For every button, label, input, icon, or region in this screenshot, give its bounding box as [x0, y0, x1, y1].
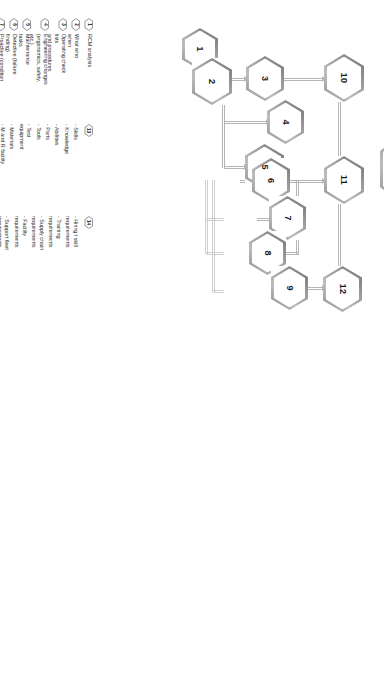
connector-lower-riser-8b [206, 254, 224, 255]
legend-13-item-6: - Materials [7, 124, 15, 192]
legend-hex-2-num: 2 [73, 23, 79, 26]
connector-lower-riser-8 [206, 252, 224, 253]
connector-6-to-11-b [290, 182, 322, 183]
legend-13-item-4: - Tools [34, 124, 42, 192]
node-hex-2[interactable]: 2 [192, 58, 232, 105]
legend-group-14-list: - Hiring / skill requirements - Training… [0, 216, 79, 288]
connector-to-4-b [224, 123, 266, 124]
legend-hex-1: 1 [85, 18, 94, 31]
legend-hex-14-num: 14 [87, 220, 92, 225]
legend-group-13-list: - Skills - Knowledge - Abilities - Parts… [0, 124, 79, 192]
legend-hex-4-num: 4 [42, 23, 48, 26]
legend-14-item-2: - Supply chain requirements [29, 216, 45, 288]
diagram-canvas-wrapper: 1 2 3 4 5 6 [0, 0, 384, 699]
legend-label-7: Proactive (condition based) [0, 34, 6, 92]
node-6-label: 6 [267, 178, 276, 183]
legend-group-14-header[interactable]: 14 [85, 216, 95, 229]
connector-lower-riser-9 [213, 290, 224, 291]
legend-hex-6: 6 [10, 18, 19, 31]
connector-to-4 [224, 121, 266, 122]
legend-hex-1-num: 1 [86, 23, 92, 26]
connector-to-5 [224, 166, 244, 167]
legend-13-item-3: - Parts [43, 124, 51, 192]
legend-hex-7-num: 7 [0, 23, 4, 26]
legend-13-item-5: - Test equipment [17, 124, 33, 192]
node-7-label: 7 [283, 215, 292, 220]
legend-group-13-header[interactable]: 13 [85, 124, 95, 137]
legend-item-2[interactable]: 2 What who when [67, 18, 82, 70]
legend-14-item-4: - Support fleet requirements [0, 216, 10, 288]
node-2-label: 2 [208, 79, 217, 84]
node-5-label: 5 [260, 164, 269, 169]
node-4-label: 4 [281, 119, 290, 124]
legend-14-item-0: - Hiring / skill requirements [63, 216, 79, 288]
legend-13-item-2: - Abilities [53, 124, 61, 192]
legend-hex-3: 3 [59, 18, 68, 31]
legend-hex-13-num: 13 [87, 128, 92, 133]
legend-item-6[interactable]: 6 Detective (failure finding) [5, 18, 20, 88]
node-3-label: 3 [261, 76, 270, 81]
legend-item-7[interactable]: 7 Proactive (condition based) [0, 18, 6, 92]
node-hex-12[interactable]: 12 [323, 266, 362, 312]
legend-hex-2: 2 [72, 18, 81, 31]
node-hex-3[interactable]: 3 [246, 56, 284, 101]
node-hex-4[interactable]: 4 [267, 100, 304, 144]
connector-lower-bar-1 [214, 180, 215, 292]
legend-label-2: What who when [67, 34, 82, 70]
legend-hex-14: 14 [85, 216, 94, 229]
legend-13-item-1: - Knowledge [62, 124, 70, 192]
node-hex-9[interactable]: 9 [271, 266, 308, 310]
legend-hex-7: 7 [0, 18, 6, 31]
connector-lower-riser-7 [206, 218, 224, 219]
legend-hex-5-num: 5 [24, 23, 30, 26]
legend-label-1: RCM analysis [86, 34, 94, 67]
legend-hex-5: 5 [23, 18, 32, 31]
connector-to-5-b [224, 168, 244, 169]
node-9-label: 9 [285, 285, 294, 290]
legend-hex-6-num: 6 [11, 23, 17, 26]
node-12-label: 12 [338, 284, 347, 294]
connector-lower-bar-2b [205, 180, 206, 254]
connector-lower-riser-7b [206, 220, 224, 221]
legend-label-6: Detective (failure finding) [5, 34, 20, 88]
connector-lower-bar-2 [207, 180, 208, 254]
diagram-canvas: 1 2 3 4 5 6 [0, 0, 384, 699]
legend-hex-4: 4 [41, 18, 50, 31]
legend-hex-3-num: 3 [60, 23, 66, 26]
legend-item-5[interactable]: 5 Maintenance tasks [18, 18, 33, 76]
node-8-label: 8 [263, 250, 272, 255]
legend-14-item-1: - Training requirements [46, 216, 62, 288]
legend-13-item-7: - M and R facility capabilities [0, 124, 6, 192]
legend-14-item-3: - Facility requirements [12, 216, 28, 288]
legend-item-1[interactable]: 1 RCM analysis [85, 18, 95, 70]
node-hex-11[interactable]: 11 [324, 156, 364, 204]
node-hex-10[interactable]: 10 [324, 54, 364, 102]
connector-6-to-11 [290, 180, 322, 181]
node-hex-13[interactable]: 13 [380, 133, 384, 205]
connector-lower-riser-9b [213, 292, 224, 293]
connector-lower-bar-1b [212, 180, 213, 292]
legend-13-item-0: - Skills [71, 124, 79, 192]
legend-label-5: Maintenance tasks [18, 34, 33, 76]
node-11-label: 11 [340, 175, 349, 185]
legend-hex-13: 13 [85, 124, 94, 137]
node-10-label: 10 [340, 73, 349, 83]
node-1-label: 1 [196, 46, 205, 51]
